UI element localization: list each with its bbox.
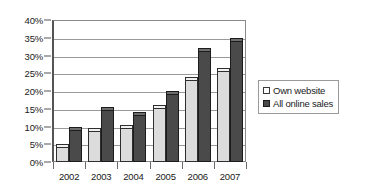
x-axis-label-2005: 2005 (150, 171, 182, 182)
x-axis-tick-mark (53, 162, 54, 169)
y-axis-tick-mark (44, 55, 51, 56)
legend-swatch-icon (263, 100, 270, 107)
x-axis-label-2007: 2007 (214, 171, 246, 182)
x-axis-tick-mark (214, 162, 215, 169)
x-axis-ticks (53, 162, 246, 170)
bar-top-cap (154, 106, 165, 109)
bar-2002-all-online-sales (69, 127, 82, 163)
y-axis-tick-label: 0% (30, 157, 43, 168)
bar-top-cap (57, 145, 68, 148)
x-axis-tick-mark (85, 162, 86, 169)
bar-2006-own-website (185, 77, 198, 162)
x-axis-labels: 200220032004200520062007 (53, 171, 246, 182)
legend-label: Own website (273, 85, 325, 96)
legend-label: All online sales (273, 98, 333, 109)
y-axis-tick-label: 40% (25, 15, 43, 26)
y-axis-tick-label: 35% (25, 32, 43, 43)
bar-top-cap (199, 49, 210, 52)
bar-top-cap (231, 39, 242, 42)
x-axis-label-2002: 2002 (53, 171, 85, 182)
bar-group (214, 20, 246, 162)
x-axis-label-2004: 2004 (117, 171, 149, 182)
bar-2006-all-online-sales (198, 48, 211, 162)
bar-top-cap (89, 129, 100, 132)
y-axis-tick-mark (44, 144, 51, 145)
bar-2002-own-website (56, 144, 69, 162)
y-axis-tick-mark (44, 126, 51, 127)
legend-item-own-website: Own website (263, 84, 333, 97)
y-axis-tick-mark (44, 162, 51, 163)
legend-item-all-online-sales: All online sales (263, 97, 333, 110)
x-axis-tick-mark (150, 162, 151, 169)
bar-2003-own-website (88, 128, 101, 162)
bar-group (117, 20, 149, 162)
y-axis-tick-mark (44, 108, 51, 109)
bar-2007-own-website (217, 68, 230, 162)
bar-2005-all-online-sales (166, 91, 179, 162)
bar-group (53, 20, 85, 162)
y-axis-tick-label: 20% (25, 86, 43, 97)
x-axis-label-2003: 2003 (85, 171, 117, 182)
bar-2007-all-online-sales (230, 38, 243, 162)
x-axis-label-2006: 2006 (182, 171, 214, 182)
bar-top-cap (121, 126, 132, 129)
x-axis-tick-mark (117, 162, 118, 169)
bar-top-cap (134, 113, 145, 116)
bar-group (85, 20, 117, 162)
bar-chart: 0%5%10%15%20%25%30%35%40% 20022003200420… (0, 0, 366, 192)
y-axis-tick-mark (44, 37, 51, 38)
bar-top-cap (167, 92, 178, 95)
y-axis-tick-label: 30% (25, 50, 43, 61)
y-axis: 0%5%10%15%20%25%30%35%40% (0, 0, 52, 182)
bar-group (150, 20, 182, 162)
y-axis-tick-mark (44, 73, 51, 74)
y-axis-tick-mark (44, 20, 51, 21)
y-axis-tick-label: 25% (25, 68, 43, 79)
y-axis-tick-mark (44, 91, 51, 92)
bar-2003-all-online-sales (101, 107, 114, 162)
legend-swatch-icon (263, 87, 270, 94)
y-axis-tick-label: 15% (25, 103, 43, 114)
bar-2004-own-website (120, 125, 133, 162)
y-axis-tick-label: 10% (25, 121, 43, 132)
bar-2004-all-online-sales (133, 112, 146, 162)
chart-legend: Own websiteAll online sales (258, 80, 339, 114)
bar-top-cap (102, 108, 113, 111)
bar-top-cap (70, 128, 81, 131)
x-axis-tick-mark (246, 162, 247, 169)
bar-top-cap (218, 69, 229, 72)
bar-2005-own-website (153, 105, 166, 162)
x-axis-tick-mark (182, 162, 183, 169)
bar-group (182, 20, 214, 162)
y-axis-tick-label: 5% (30, 139, 43, 150)
bar-top-cap (186, 78, 197, 81)
bars-layer (53, 20, 246, 162)
